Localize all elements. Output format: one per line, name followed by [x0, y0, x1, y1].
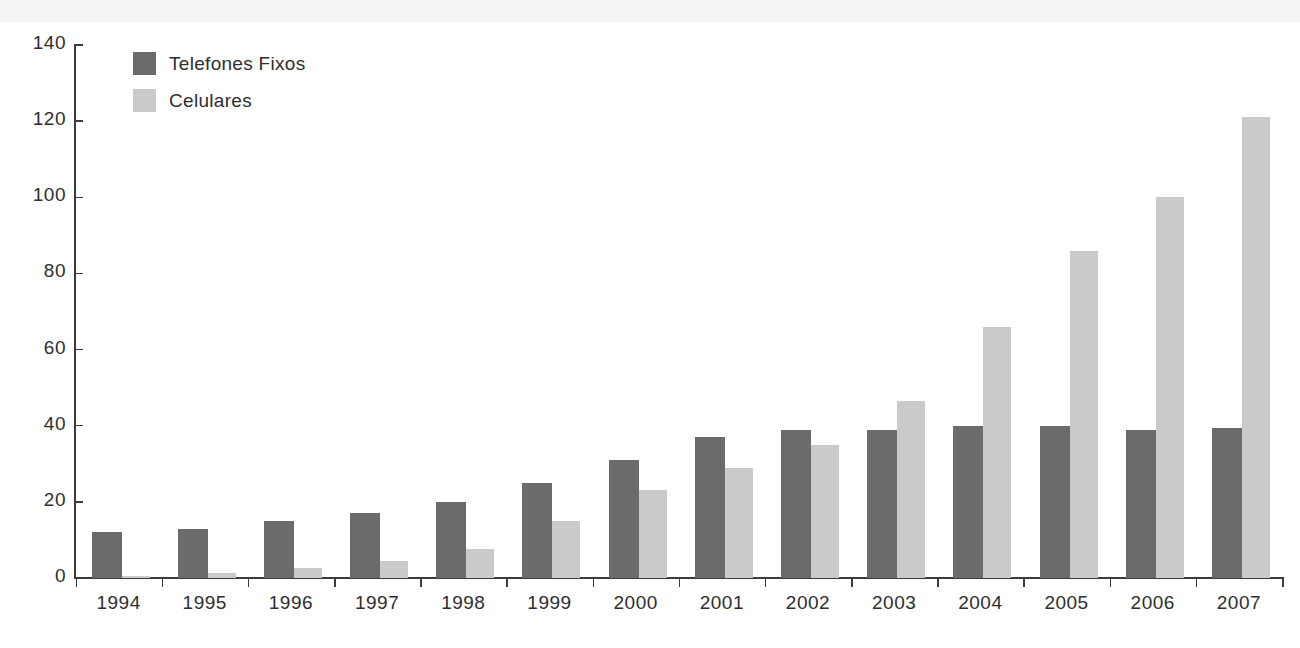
- x-tick-12: [1110, 577, 1112, 587]
- x-tick-0: [76, 577, 78, 587]
- x-axis-label-1997: 1997: [334, 592, 420, 614]
- bar-telefones-fixos-1996: [264, 521, 294, 578]
- bar-telefones-fixos-2004: [953, 426, 983, 578]
- bar-telefones-fixos-2001: [695, 437, 725, 578]
- bar-celulares-1998: [466, 549, 494, 578]
- x-axis-label-1994: 1994: [76, 592, 162, 614]
- legend-item-telefones-fixos: Telefones Fixos: [133, 52, 306, 75]
- x-tick-4: [420, 577, 422, 587]
- bar-celulares-2005: [1070, 251, 1098, 578]
- bar-celulares-2000: [639, 490, 667, 578]
- bar-celulares-1995: [208, 573, 236, 578]
- x-axis-label-2000: 2000: [593, 592, 679, 614]
- bar-celulares-1994: [122, 576, 150, 578]
- x-tick-end: [1282, 577, 1284, 587]
- bar-telefones-fixos-1997: [350, 513, 380, 578]
- x-tick-13: [1196, 577, 1198, 587]
- x-tick-5: [506, 577, 508, 587]
- legend-item-celulares: Celulares: [133, 89, 306, 112]
- legend: Telefones Fixos Celulares: [133, 52, 306, 126]
- x-axis-label-2001: 2001: [679, 592, 765, 614]
- x-axis-label-2006: 2006: [1110, 592, 1196, 614]
- x-axis-label-2005: 2005: [1023, 592, 1109, 614]
- bar-celulares-2001: [725, 468, 753, 578]
- bar-celulares-1999: [552, 521, 580, 578]
- bar-celulares-2004: [983, 327, 1011, 578]
- bar-telefones-fixos-1998: [436, 502, 466, 578]
- legend-label-telefones-fixos: Telefones Fixos: [169, 53, 306, 75]
- legend-label-celulares: Celulares: [169, 90, 252, 112]
- x-axis-label-1996: 1996: [248, 592, 334, 614]
- x-tick-8: [765, 577, 767, 587]
- legend-swatch-telefones-fixos: [133, 52, 156, 75]
- x-tick-1: [162, 577, 164, 587]
- x-tick-2: [248, 577, 250, 587]
- x-tick-10: [937, 577, 939, 587]
- bar-celulares-1997: [380, 561, 408, 578]
- x-tick-6: [593, 577, 595, 587]
- bar-chart: 020406080100120140 199419951996199719981…: [0, 0, 1300, 648]
- bar-telefones-fixos-1999: [522, 483, 552, 578]
- x-tick-9: [851, 577, 853, 587]
- x-tick-3: [334, 577, 336, 587]
- bar-celulares-2006: [1156, 197, 1184, 578]
- bar-celulares-2003: [897, 401, 925, 578]
- bar-celulares-2002: [811, 445, 839, 578]
- x-tick-7: [679, 577, 681, 587]
- bar-celulares-2007: [1242, 117, 1270, 578]
- bar-telefones-fixos-2005: [1040, 426, 1070, 578]
- bar-celulares-1996: [294, 568, 322, 578]
- x-axis-label-1999: 1999: [506, 592, 592, 614]
- x-axis-label-1998: 1998: [420, 592, 506, 614]
- x-axis-label-2004: 2004: [937, 592, 1023, 614]
- x-axis-label-2007: 2007: [1196, 592, 1282, 614]
- x-axis-label-2002: 2002: [765, 592, 851, 614]
- bar-telefones-fixos-2002: [781, 430, 811, 578]
- x-tick-11: [1023, 577, 1025, 587]
- bar-telefones-fixos-2000: [609, 460, 639, 578]
- x-axis-label-2003: 2003: [851, 592, 937, 614]
- x-axis-label-1995: 1995: [162, 592, 248, 614]
- bar-telefones-fixos-2006: [1126, 430, 1156, 578]
- bar-telefones-fixos-2007: [1212, 428, 1242, 578]
- legend-swatch-celulares: [133, 89, 156, 112]
- bar-telefones-fixos-2003: [867, 430, 897, 578]
- bar-telefones-fixos-1995: [178, 529, 208, 578]
- bar-telefones-fixos-1994: [92, 532, 122, 578]
